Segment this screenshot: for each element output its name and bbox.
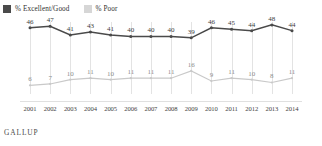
data-point	[250, 29, 253, 32]
data-point	[230, 28, 233, 31]
x-tick-label: 2002	[44, 105, 57, 112]
x-tick-label: 2010	[205, 105, 218, 112]
data-point	[130, 77, 132, 79]
data-point	[149, 35, 152, 38]
data-point	[89, 31, 92, 34]
data-label: 47	[47, 16, 54, 24]
data-label: 11	[228, 68, 235, 76]
x-tick-label: 2005	[104, 105, 117, 112]
data-label: 40	[147, 26, 154, 34]
data-label: 11	[289, 68, 296, 76]
data-label: 45	[228, 19, 235, 27]
data-label: 10	[107, 70, 114, 78]
data-label: 46	[27, 18, 34, 26]
data-label: 16	[188, 61, 195, 69]
x-tick-label: 2008	[165, 105, 178, 112]
data-point	[251, 79, 253, 81]
x-tick-label: 2013	[265, 105, 278, 112]
data-point	[291, 29, 294, 32]
data-point	[49, 83, 51, 85]
data-label: 11	[168, 68, 175, 76]
data-point	[129, 35, 132, 38]
data-point	[29, 84, 31, 86]
data-point	[190, 70, 192, 72]
axis-baseline	[20, 101, 302, 102]
data-label: 7	[48, 74, 52, 82]
legend-label: % Poor	[96, 5, 118, 13]
data-point	[271, 81, 273, 83]
data-label: 10	[248, 70, 255, 78]
data-label: 46	[208, 18, 215, 26]
x-tick-label: 2006	[124, 105, 137, 112]
data-label: 48	[268, 15, 275, 23]
x-tick-label: 2012	[245, 105, 258, 112]
x-tick-label: 2011	[225, 105, 238, 112]
series-lines	[20, 22, 302, 94]
legend-item-excellent-good: % Excellent/Good	[3, 5, 70, 13]
data-point	[170, 35, 173, 38]
plot-area: 4647414341404040394645444844671011101111…	[20, 22, 302, 94]
data-label: 40	[127, 26, 134, 34]
data-label: 9	[210, 71, 214, 79]
x-tick-label: 2001	[24, 105, 37, 112]
data-point	[109, 33, 112, 36]
x-tick-label: 2009	[185, 105, 198, 112]
data-point	[230, 77, 232, 79]
legend-swatch-icon	[3, 5, 11, 13]
legend-swatch-icon	[84, 5, 92, 13]
data-point	[69, 79, 71, 81]
data-point	[291, 77, 293, 79]
data-label: 11	[87, 68, 94, 76]
data-label: 6	[28, 75, 32, 83]
data-point	[190, 36, 193, 39]
data-point	[210, 26, 213, 29]
gallup-brand: GALLUP	[4, 128, 39, 137]
data-label: 41	[107, 25, 114, 33]
data-label: 40	[168, 26, 175, 34]
data-point	[270, 23, 273, 26]
data-label: 39	[188, 28, 195, 36]
x-tick-label: 2003	[64, 105, 77, 112]
data-label: 44	[248, 21, 255, 29]
chart-container: % Excellent/Good % Poor 4647414341404040…	[0, 0, 322, 146]
x-tick-label: 2007	[145, 105, 158, 112]
data-label: 11	[148, 68, 155, 76]
data-label: 43	[87, 22, 94, 30]
data-label: 41	[67, 25, 74, 33]
data-point	[210, 80, 212, 82]
chart-legend: % Excellent/Good % Poor	[3, 3, 117, 15]
x-axis: 2001200220032004200520062007200820092010…	[20, 105, 302, 117]
x-tick-label: 2004	[84, 105, 97, 112]
data-label: 10	[67, 70, 74, 78]
data-point	[150, 77, 152, 79]
data-label: 8	[270, 72, 274, 80]
legend-label: % Excellent/Good	[15, 5, 70, 13]
data-point	[29, 26, 32, 29]
data-point	[49, 25, 52, 28]
data-point	[69, 33, 72, 36]
data-point	[110, 79, 112, 81]
data-point	[89, 77, 91, 79]
legend-item-poor: % Poor	[84, 5, 118, 13]
data-label: 11	[127, 68, 134, 76]
data-point	[170, 77, 172, 79]
data-label: 44	[289, 21, 296, 29]
x-tick-label: 2014	[286, 105, 299, 112]
